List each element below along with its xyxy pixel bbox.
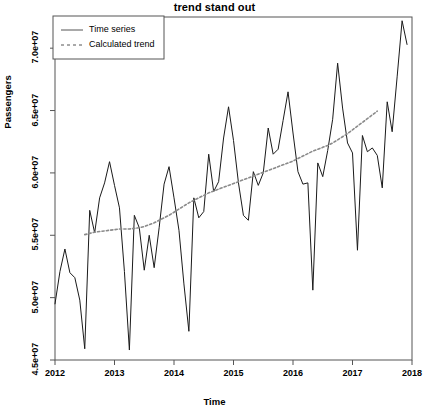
y-tick-label: 7.0e+07 [30,24,40,70]
legend-frame [53,16,164,59]
x-tick-label: 2013 [95,368,135,378]
y-axis-title: Passengers [2,42,16,162]
y-tick-label: 5.0e+07 [30,274,40,320]
legend-label-2: Calculated trend [89,39,155,49]
x-tick-label: 2018 [392,368,429,378]
series-line-2 [85,111,378,234]
plot-panel-border [55,17,412,360]
x-tick-label: 2014 [154,368,194,378]
x-axis-title: Time [0,396,429,407]
x-tick-label: 2012 [35,368,75,378]
y-tick-label: 6.0e+07 [30,149,40,195]
chart-container: trend stand out Passengers Time 4.5e+075… [0,0,429,414]
legend-label-1: Time series [89,24,135,34]
y-tick-label: 6.5e+07 [30,87,40,133]
x-tick-label: 2016 [273,368,313,378]
panel-rect [55,17,412,360]
series-line-1 [55,21,407,350]
plot-canvas [0,0,429,414]
x-tick-label: 2015 [214,368,254,378]
legend-box [53,16,164,59]
x-tick-label: 2017 [333,368,373,378]
y-axis-ticks [50,48,55,360]
data-series-group [55,21,407,350]
y-tick-label: 5.5e+07 [30,211,40,257]
x-axis-ticks [55,360,412,365]
